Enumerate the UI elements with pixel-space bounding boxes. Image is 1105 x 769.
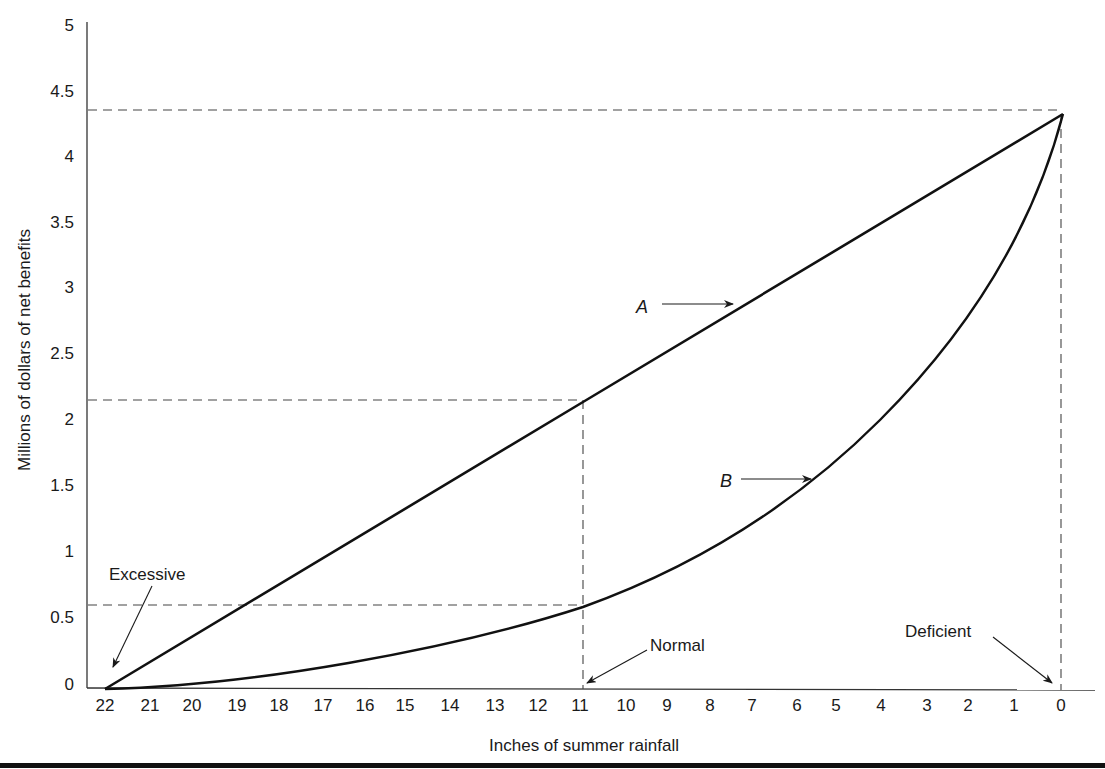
x-tick: 8: [705, 696, 714, 715]
x-tick: 3: [922, 696, 931, 715]
series-a-label: A: [635, 297, 648, 317]
y-tick: 1: [65, 542, 74, 561]
x-tick: 10: [617, 696, 636, 715]
annotation-normal: Normal: [587, 636, 705, 683]
x-tick: 5: [831, 696, 840, 715]
y-tick: 0: [65, 675, 74, 694]
x-tick: 21: [141, 696, 160, 715]
x-tick: 14: [441, 696, 460, 715]
y-tick: 1.5: [50, 476, 74, 495]
series-a-label-group: A: [635, 297, 733, 317]
x-tick: 2: [963, 696, 972, 715]
x-tick: 17: [314, 696, 333, 715]
y-tick: 5: [65, 16, 74, 35]
reference-lines: [88, 110, 1063, 690]
series-a-line: [105, 114, 1063, 689]
excessive-label: Excessive: [109, 565, 186, 584]
x-tick: 16: [356, 696, 375, 715]
x-tick: 22: [96, 696, 115, 715]
x-tick-labels: 22 21 20 19 18 17 16 15 14 13 12 11 10 9…: [96, 696, 1066, 715]
x-axis-line: [87, 688, 1095, 690]
y-tick-labels: 0 0.5 1 1.5 2 2.5 3 3.5 4 4.5 5: [50, 16, 74, 694]
x-tick: 12: [529, 696, 548, 715]
y-tick: 2: [65, 410, 74, 429]
y-tick: 3.5: [50, 213, 74, 232]
y-tick: 4: [65, 147, 74, 166]
x-tick: 15: [396, 696, 415, 715]
bottom-rule: [0, 763, 1105, 768]
deficient-label: Deficient: [905, 622, 971, 641]
normal-label: Normal: [650, 636, 705, 655]
x-tick: 18: [270, 696, 289, 715]
series-b-label-group: B: [720, 471, 811, 491]
y-tick: 3: [65, 278, 74, 297]
chart-canvas: 0 0.5 1 1.5 2 2.5 3 3.5 4 4.5 5 22 21 20…: [0, 0, 1105, 769]
x-tick: 1: [1009, 696, 1018, 715]
annotation-excessive: Excessive: [109, 565, 186, 667]
y-tick: 0.5: [50, 608, 74, 627]
x-tick: 0: [1056, 696, 1065, 715]
excessive-arrow: [113, 586, 152, 667]
x-tick: 4: [876, 696, 885, 715]
deficient-arrow: [993, 637, 1052, 683]
normal-arrow: [587, 650, 647, 683]
series-b-label: B: [720, 471, 732, 491]
annotation-deficient: Deficient: [905, 622, 1052, 683]
y-tick: 4.5: [50, 82, 74, 101]
axes: [87, 22, 1095, 690]
x-tick: 20: [183, 696, 202, 715]
x-tick: 6: [792, 696, 801, 715]
x-tick: 11: [571, 696, 589, 715]
x-tick: 7: [747, 696, 756, 715]
x-tick: 13: [486, 696, 505, 715]
y-axis-title: Millions of dollars of net benefits: [15, 229, 34, 471]
x-tick: 19: [228, 696, 247, 715]
x-tick: 9: [662, 696, 671, 715]
x-axis-title: Inches of summer rainfall: [489, 736, 679, 755]
y-tick: 2.5: [50, 344, 74, 363]
